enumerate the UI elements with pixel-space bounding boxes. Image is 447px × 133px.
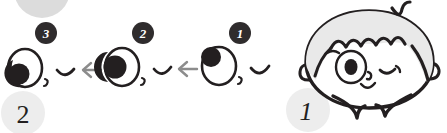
eye-step-3-badge: 3 [35,22,57,44]
eye-step-2-badge-label: 2 [139,26,147,41]
eye-pupil-blob [201,47,221,67]
step-marker-1-label: 1 [300,97,313,126]
eye-pupil-blob [104,56,127,79]
hair-cowlick [392,2,410,14]
open-eye-pupil [345,59,358,75]
nose-mark [44,79,48,86]
nose-mark [238,77,242,84]
nose-mark [141,78,145,85]
mouth-curve [251,66,269,73]
eye-pupil-blob [9,64,30,85]
illustration-canvas: 2 1 3 [0,0,447,133]
mouth-curve [154,67,171,74]
step-marker-partial-top [14,0,70,18]
eye-step-2-badge: 2 [132,22,154,44]
eye-step-3-badge-label: 3 [42,26,50,41]
eye-step-1-badge: 1 [229,22,251,44]
arrow-left-2 [179,62,197,76]
step-marker-2: 2 [1,91,45,133]
drawing-layer: 2 1 3 [0,0,447,133]
step-marker-2-label: 2 [17,100,30,129]
eye-step-2 [94,48,171,86]
eye-step-3 [4,49,74,87]
eye-step-1 [201,46,269,85]
eye-step-1-badge-label: 1 [237,26,244,41]
mouth-curve [57,69,74,75]
